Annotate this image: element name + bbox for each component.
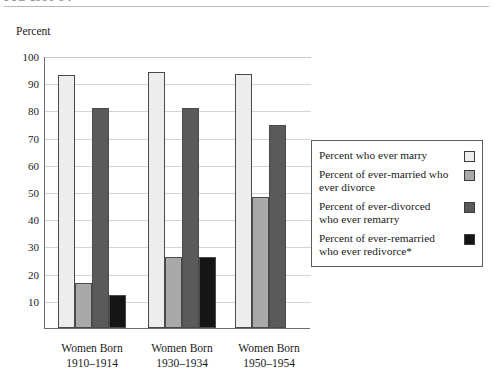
y-axis-tick-90: 90 bbox=[13, 79, 39, 90]
legend-swatch-icon bbox=[464, 202, 475, 213]
bar-group-2 bbox=[148, 57, 216, 328]
cropped-title-strip: FIG 1990-94 bbox=[0, 0, 493, 9]
bar-g3-s3[interactable] bbox=[269, 125, 286, 328]
y-axis-tick-40: 40 bbox=[13, 215, 39, 226]
bar-g2-s2[interactable] bbox=[165, 257, 182, 328]
legend-item-label: Percent who ever marry bbox=[319, 149, 427, 163]
legend-item-label: Percent of ever-divorced who ever remarr… bbox=[319, 200, 451, 227]
chart-plot-area: 100908070605040302010Women Born1910–1914… bbox=[44, 57, 310, 329]
bar-g2-s4[interactable] bbox=[199, 257, 216, 328]
legend-item-1[interactable]: Percent who ever marry bbox=[319, 149, 475, 163]
x-axis-label-line: Women Born bbox=[207, 341, 331, 356]
legend-item-2[interactable]: Percent of ever-married who ever divorce bbox=[319, 168, 475, 195]
legend-swatch-icon bbox=[464, 151, 475, 162]
header-divider bbox=[4, 6, 489, 7]
bar-g2-s3[interactable] bbox=[182, 108, 199, 328]
x-axis-label-3: Women Born1950–1954 bbox=[207, 341, 331, 371]
legend-item-label: Percent of ever-remarried who ever rediv… bbox=[319, 232, 451, 259]
page-title: FIG 1990-94 bbox=[4, 0, 72, 5]
bar-group-3 bbox=[235, 57, 286, 328]
y-axis-tick-70: 70 bbox=[13, 133, 39, 144]
legend-swatch-icon bbox=[464, 170, 475, 181]
chart-legend: Percent who ever marryPercent of ever-ma… bbox=[311, 140, 483, 267]
x-axis-label-line: 1950–1954 bbox=[207, 356, 331, 371]
y-axis-tick-80: 80 bbox=[13, 106, 39, 117]
y-axis-tick-30: 30 bbox=[13, 242, 39, 253]
y-axis-tick-20: 20 bbox=[13, 269, 39, 280]
bar-g3-s1[interactable] bbox=[235, 74, 252, 328]
legend-swatch-icon bbox=[464, 234, 475, 245]
bar-g3-s2[interactable] bbox=[252, 197, 269, 328]
y-axis-tick-60: 60 bbox=[13, 160, 39, 171]
legend-item-label: Percent of ever-married who ever divorce bbox=[319, 168, 451, 195]
y-axis-tick-10: 10 bbox=[13, 296, 39, 307]
y-axis-tick-100: 100 bbox=[13, 52, 39, 63]
y-axis-tick-50: 50 bbox=[13, 188, 39, 199]
legend-item-3[interactable]: Percent of ever-divorced who ever remarr… bbox=[319, 200, 475, 227]
bar-g1-s4[interactable] bbox=[109, 295, 126, 328]
bar-g2-s1[interactable] bbox=[148, 72, 165, 328]
y-axis-label: Percent bbox=[16, 25, 50, 37]
bar-group-1 bbox=[58, 57, 126, 328]
bar-g1-s3[interactable] bbox=[92, 108, 109, 328]
bar-g1-s1[interactable] bbox=[58, 75, 75, 328]
legend-item-4[interactable]: Percent of ever-remarried who ever rediv… bbox=[319, 232, 475, 259]
bar-g1-s2[interactable] bbox=[75, 283, 92, 328]
